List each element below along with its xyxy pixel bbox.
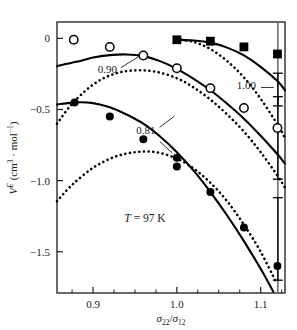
y-tick-label-2: −1.0: [30, 175, 50, 187]
curve-label-090: 0.90: [98, 63, 118, 75]
marker-filled-circle: [173, 162, 181, 170]
marker-filled-circle: [206, 188, 214, 196]
marker-filled-circle: [273, 262, 281, 270]
marker-open-circle: [70, 36, 78, 44]
marker-open-circle: [206, 84, 214, 92]
x-tick-label-1: 1.0: [170, 298, 184, 310]
x-tick-label-0: 0.9: [86, 298, 100, 310]
marker-open-circle: [240, 104, 248, 112]
figure-container: 0.91.01.10−0.5−1.0−1.5 T = 97 K0.900.811…: [0, 0, 297, 330]
marker-filled-square: [172, 35, 181, 44]
marker-filled-square: [240, 42, 249, 51]
x-tick-label-2: 1.1: [254, 298, 268, 310]
marker-filled-circle: [139, 135, 147, 143]
marker-open-circle: [106, 43, 114, 51]
curve-label-100: 1.00: [237, 79, 257, 91]
marker-filled-circle: [106, 113, 114, 121]
temperature: T = 97 K: [124, 212, 166, 224]
y-tick-label-0: 0: [45, 32, 51, 44]
marker-filled-circle: [71, 98, 79, 106]
y-axis-title: VE (cm3 · mol−1): [6, 121, 20, 194]
chart-plot: 0.91.01.10−0.5−1.0−1.5 T = 97 K0.900.811…: [0, 0, 297, 330]
marker-filled-square: [273, 50, 282, 59]
marker-filled-square: [206, 37, 215, 46]
marker-filled-circle: [173, 154, 181, 162]
y-tick-label-1: −0.5: [30, 103, 50, 115]
y-tick-label-3: −1.5: [30, 246, 50, 258]
x-axis-title: σ22/σ12: [157, 312, 186, 327]
marker-open-circle: [139, 51, 147, 59]
marker-filled-circle: [240, 224, 248, 232]
marker-open-circle: [273, 124, 281, 132]
curve-label-081: 0.81: [136, 124, 155, 136]
svg-text:σ22/σ12: σ22/σ12: [157, 312, 186, 327]
svg-text:VE (cm3 · mol−1): VE (cm3 · mol−1): [6, 121, 20, 194]
marker-open-circle: [173, 64, 181, 72]
